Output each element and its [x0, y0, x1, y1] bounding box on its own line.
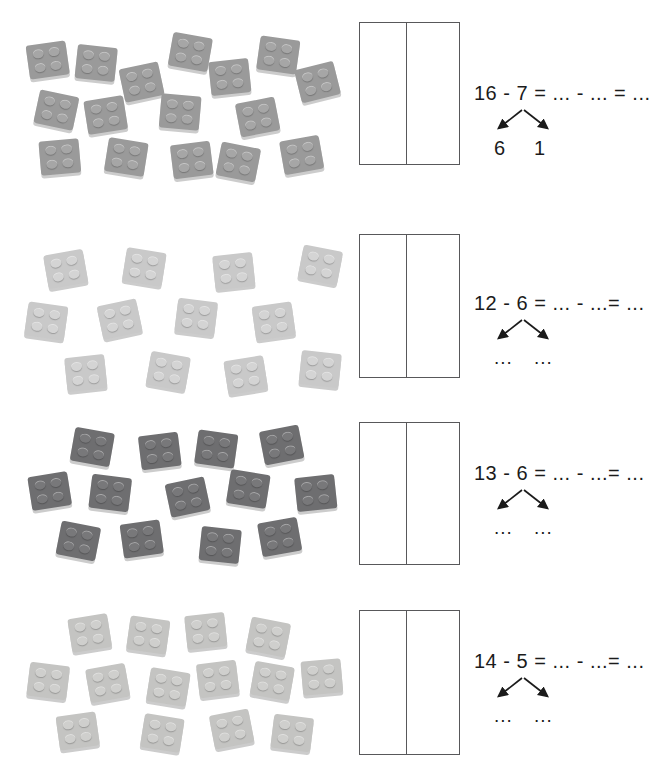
equation-group: 12 - 6 = ... - ...= .........: [474, 292, 659, 373]
brick-stud: [50, 477, 62, 488]
brick-plate: [56, 521, 102, 562]
brick-stud: [191, 619, 203, 629]
brick-stud: [43, 95, 56, 106]
answer-box[interactable]: [359, 22, 460, 165]
worksheet-row: 13 - 6 = ... - ...= .........: [0, 410, 659, 600]
brick-stud: [276, 321, 288, 331]
lego-brick: [170, 141, 214, 184]
brick-stud: [220, 679, 232, 689]
brick-plate: [299, 350, 342, 388]
brick-plate: [146, 351, 191, 391]
number-bond-values: 61: [486, 137, 596, 163]
brick-plate: [146, 667, 191, 707]
brick-stud: [192, 633, 204, 643]
brick-stud: [182, 100, 194, 110]
brick-stud: [165, 721, 177, 732]
brick-plate: [83, 95, 128, 135]
brick-stud: [323, 357, 335, 367]
worksheet-row: 16 - 7 = ... - ... = ...61: [0, 10, 659, 200]
brick-plate: [174, 298, 218, 337]
answer-box[interactable]: [359, 234, 460, 378]
brick-stud: [244, 120, 257, 131]
brick-stud: [103, 308, 116, 319]
brick-stud: [202, 667, 214, 677]
brick-stud: [193, 41, 205, 52]
brick-stud: [208, 632, 220, 642]
brick-stud: [160, 438, 172, 448]
bond-value-left: ...: [494, 347, 513, 369]
brick-stud: [305, 370, 317, 380]
lego-brick: [69, 427, 115, 471]
brick-stud: [307, 356, 319, 366]
brick-stud: [147, 733, 159, 744]
brick-stud: [111, 495, 123, 505]
brick-stud: [257, 681, 269, 692]
lego-brick: [103, 137, 148, 181]
brick-plate: [212, 252, 255, 290]
brick-stud: [129, 145, 141, 156]
brick-plate: [75, 44, 118, 82]
lego-brick: [118, 61, 165, 106]
lego-brick: [121, 247, 166, 291]
brick-stud: [144, 81, 157, 92]
lego-brick: [56, 711, 101, 754]
brick-stud: [266, 434, 279, 445]
lego-brick: [126, 615, 171, 658]
brick-plate: [38, 138, 81, 175]
brick-stud: [219, 437, 231, 447]
brick-stud: [59, 99, 72, 110]
brick-plate: [33, 89, 79, 131]
lego-brick: [174, 298, 218, 341]
brick-stud: [231, 715, 244, 726]
brick-plate: [26, 662, 70, 701]
brick-stud: [80, 731, 92, 741]
lego-brick: [252, 301, 297, 344]
brick-stud: [259, 667, 271, 678]
brick-stud: [74, 622, 86, 633]
brick-stud: [50, 60, 62, 70]
brick-plate: [43, 249, 88, 289]
brick-stud: [284, 445, 297, 456]
brick-plate: [118, 61, 164, 103]
brick-stud: [122, 318, 135, 329]
brick-stud: [323, 664, 335, 674]
equation-text: 14 - 5 = ... - ...= ...: [474, 650, 659, 673]
answer-box-divider: [406, 423, 407, 564]
lego-brick: [27, 471, 72, 515]
brick-stud: [81, 64, 93, 74]
brick-plate: [216, 142, 262, 183]
brick-stud: [242, 106, 255, 117]
brick-stud: [268, 639, 281, 650]
lego-brick: [26, 40, 71, 83]
worksheet-row: 12 - 6 = ... - ...= .........: [0, 222, 659, 412]
answer-box[interactable]: [359, 422, 460, 565]
brick-plate: [300, 658, 343, 695]
brick-stud: [272, 683, 284, 694]
brick-stud: [141, 68, 154, 79]
brick-stud: [181, 317, 193, 327]
lego-brick: [294, 61, 342, 108]
number-bond-arrows: [486, 487, 596, 517]
brick-stud: [83, 50, 95, 60]
worksheet-row: 14 - 5 = ... - ...= .........: [0, 598, 659, 784]
brick-stud: [190, 54, 202, 65]
brick-stud: [61, 144, 73, 154]
bond-value-left: ...: [494, 705, 513, 727]
lego-brick: [38, 138, 81, 179]
lego-brick: [139, 713, 184, 757]
brick-stud: [317, 67, 330, 78]
answer-box[interactable]: [359, 610, 460, 755]
brick-stud: [95, 436, 107, 447]
brick-plate: [67, 613, 112, 653]
number-bond-values: ......: [486, 517, 596, 543]
brick-stud: [144, 539, 156, 549]
brick-stud: [241, 151, 254, 162]
brick-stud: [279, 57, 291, 67]
lego-brick: [164, 476, 211, 521]
brick-stud: [223, 533, 235, 543]
lego-brick: [212, 252, 256, 294]
brick-stud: [192, 147, 204, 157]
equation-group: 14 - 5 = ... - ...= .........: [474, 650, 659, 731]
lego-brick: [83, 95, 128, 139]
brick-stud: [203, 435, 215, 445]
